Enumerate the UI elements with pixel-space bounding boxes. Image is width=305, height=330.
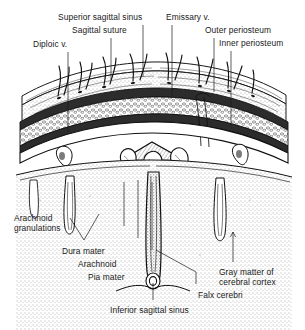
label-superior-sagittal-sinus: Superior sagittal sinus [58, 12, 142, 22]
label-emissary-v: Emissary v. [166, 12, 210, 22]
label-sagittal-suture: Sagittal suture [72, 25, 127, 35]
label-dura-mater: Dura mater [62, 246, 105, 256]
anatomical-figure: Superior sagittal sinus Sagittal suture … [0, 0, 305, 330]
label-pia-mater: Pia mater [88, 272, 125, 282]
label-inferior-sagittal-sinus: Inferior sagittal sinus [110, 305, 189, 315]
label-inner-periosteum: Inner periosteum [219, 38, 283, 48]
label-falx-cerebri: Falx cerebri [198, 290, 243, 300]
label-gray-matter-line2: cerebral cortex [219, 277, 276, 287]
label-arachnoid: Arachnoid [78, 259, 116, 269]
label-arachnoid-granulations-line2: granulations [14, 223, 61, 233]
label-arachnoid-granulations-line1: Arachnoid [14, 213, 61, 223]
label-arachnoid-granulations: Arachnoid granulations [14, 213, 61, 233]
label-gray-matter: Gray matter of cerebral cortex [219, 267, 276, 287]
label-gray-matter-line1: Gray matter of [219, 267, 276, 277]
label-diploic-v: Diploic v. [33, 39, 67, 49]
falx-cerebri [146, 172, 161, 285]
cerebral-sulcus-right [214, 178, 226, 241]
label-outer-periosteum: Outer periosteum [205, 25, 271, 35]
cerebral-sulcus-left [64, 176, 75, 234]
